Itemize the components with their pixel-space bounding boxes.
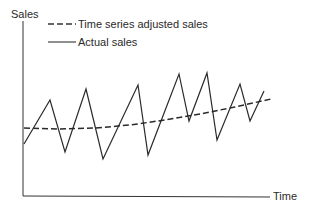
y-axis-label: Sales — [11, 8, 39, 20]
x-axis-label: Time — [273, 190, 297, 202]
x-axis — [23, 196, 270, 197]
adjusted-sales-line — [24, 99, 271, 129]
chart-canvas — [0, 0, 310, 211]
legend-dashed-label: Time series adjusted sales — [78, 18, 208, 30]
legend-solid-label: Actual sales — [78, 36, 137, 48]
actual-sales-line — [24, 73, 264, 159]
